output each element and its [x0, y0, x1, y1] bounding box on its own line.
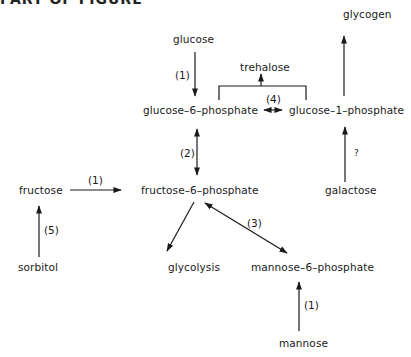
label-step-4: (4) — [266, 93, 281, 105]
label-step-1-fructose: (1) — [88, 174, 103, 186]
node-galactose: galactose — [325, 184, 377, 196]
label-step-5: (5) — [44, 224, 59, 236]
node-glycogen: glycogen — [343, 8, 392, 20]
node-glycolysis: glycolysis — [168, 261, 220, 273]
label-unknown-galactose: ? — [354, 147, 359, 159]
node-glucose: glucose — [173, 33, 214, 45]
metabolic-pathway-diagram: PART OF FIGURE glycogen gl — [0, 0, 411, 357]
node-glucose-6-phosphate: glucose–6–phosphate — [143, 104, 258, 116]
label-step-2: (2) — [180, 147, 195, 159]
node-fructose: fructose — [19, 184, 63, 196]
node-glucose-1-phosphate: glucose–1–phosphate — [289, 104, 404, 116]
arrow-layer — [0, 0, 411, 357]
label-step-1-glucose: (1) — [175, 69, 190, 81]
node-mannose-6-phosphate: mannose–6–phosphate — [251, 261, 374, 273]
node-trehalose: trehalose — [240, 61, 290, 73]
label-step-3: (3) — [247, 217, 262, 229]
node-fructose-6-phosphate: fructose–6–phosphate — [141, 184, 259, 196]
node-mannose: mannose — [279, 337, 328, 349]
bracket-to-trehalose — [219, 86, 306, 100]
node-sorbitol: sorbitol — [18, 261, 58, 273]
arrow-f6p-m6p — [205, 203, 287, 253]
arrow-f6p-to-glycolysis — [167, 202, 194, 251]
label-step-1-mannose: (1) — [304, 299, 319, 311]
